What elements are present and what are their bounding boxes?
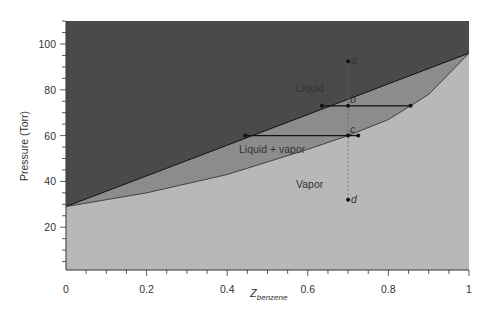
y-tick-label: 60 (44, 130, 56, 142)
state-point-d (346, 198, 350, 202)
x-tick-label: 1 (466, 283, 472, 295)
y-tick-label: 20 (44, 221, 56, 233)
y-tick-label: 80 (44, 84, 56, 96)
y-axis-label: Pressure (Torr) (18, 111, 30, 181)
x-tick-label: 0 (63, 283, 69, 295)
x-tick-label: 0.2 (139, 283, 154, 295)
y-tick-label: 100 (38, 38, 56, 50)
y-tick-label: 40 (44, 175, 56, 187)
point-label-c: c (350, 123, 356, 135)
x-tick-label: 0.6 (300, 283, 315, 295)
tie-line-endpoint (409, 104, 413, 108)
x-axis-label: Zbenzene (249, 287, 288, 302)
point-label-b: b (350, 93, 356, 105)
x-tick-label: 0.4 (220, 283, 235, 295)
state-point-a (346, 59, 350, 63)
x-tick-label: 0.8 (381, 283, 396, 295)
tie-line-endpoint (320, 104, 324, 108)
tie-line-endpoint (243, 134, 247, 138)
phase-diagram-chart: 2040608010000.20.40.60.81 Liquid Liquid … (0, 0, 486, 322)
region-label-vapor: Vapor (296, 178, 324, 190)
point-label-a: a (351, 54, 357, 66)
x-axis-label-subscript: benzene (257, 293, 288, 302)
tie-line-endpoint (356, 134, 360, 138)
region-label-liquid: Liquid (296, 82, 324, 94)
region-label-two-phase: Liquid + vapor (239, 143, 306, 155)
